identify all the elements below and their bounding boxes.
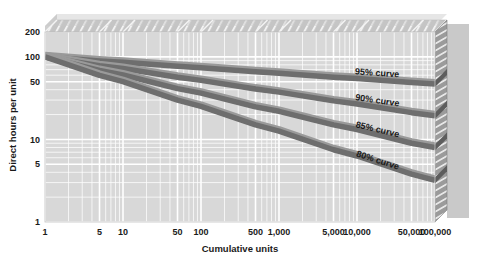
chart-top-surface <box>45 14 447 32</box>
x-axis-title: Cumulative units <box>202 243 279 254</box>
chart-right-wall <box>435 20 447 222</box>
x-tick-label: 10,000 <box>343 227 371 237</box>
y-tick-label: 50 <box>30 77 40 87</box>
x-tick-label: 100 <box>193 227 208 237</box>
x-tick-label: 5,000 <box>322 227 345 237</box>
x-tick-label: 5 <box>97 227 102 237</box>
y-axis-title: Direct hours per unit <box>7 77 18 171</box>
y-tick-label: 1 <box>35 217 40 227</box>
chart-canvas: 2001005010511510501005001,0005,00010,000… <box>0 0 501 260</box>
y-tick-label: 200 <box>25 27 40 37</box>
y-tick-label: 5 <box>35 159 40 169</box>
y-tick-label: 10 <box>30 135 40 145</box>
x-tick-label: 1,000 <box>268 227 291 237</box>
x-tick-label: 500 <box>248 227 263 237</box>
y-tick-label: 100 <box>25 52 40 62</box>
x-tick-label: 1 <box>42 227 47 237</box>
x-tick-label: 100,000 <box>419 227 452 237</box>
learning-curve-chart: 2001005010511510501005001,0005,00010,000… <box>0 0 501 260</box>
x-tick-label: 10 <box>118 227 128 237</box>
x-tick-label: 50 <box>173 227 183 237</box>
